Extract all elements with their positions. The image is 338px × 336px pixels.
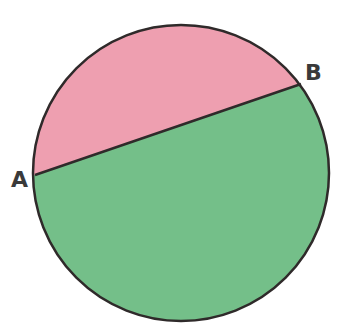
circle-diagram: A B — [0, 0, 338, 336]
point-a-label: A — [11, 167, 28, 192]
point-b-label: B — [305, 60, 322, 85]
